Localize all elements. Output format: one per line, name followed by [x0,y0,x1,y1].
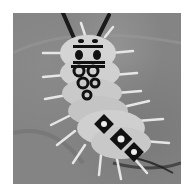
caterpillar-illustration [13,13,181,184]
caterpillar-body [60,35,151,159]
caterpillar-photo [13,13,181,184]
